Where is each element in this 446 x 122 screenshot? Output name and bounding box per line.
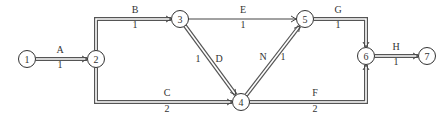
node-5: 5 bbox=[297, 11, 314, 28]
node-3: 3 bbox=[172, 11, 189, 28]
edge-d-inner bbox=[185, 26, 236, 95]
node-label: 7 bbox=[425, 51, 430, 62]
activity-label: B bbox=[132, 4, 139, 15]
activity-label: N bbox=[259, 51, 266, 62]
edge-g bbox=[314, 19, 370, 47]
duration-label: 1 bbox=[133, 19, 138, 30]
duration-label: 1 bbox=[336, 19, 341, 30]
duration-label: 1 bbox=[241, 19, 246, 30]
node-6: 6 bbox=[358, 48, 375, 65]
edge-d bbox=[185, 26, 236, 95]
duration-label: 1 bbox=[281, 51, 286, 62]
node-label: 4 bbox=[239, 97, 244, 108]
activity-label: D bbox=[215, 53, 222, 64]
duration-label: 1 bbox=[58, 59, 63, 70]
node-2: 2 bbox=[88, 51, 105, 68]
network-diagram: 1234567 A1B1C2D1E1N1F2G1H1 bbox=[0, 0, 446, 122]
node-label: 6 bbox=[364, 51, 369, 62]
duration-label: 2 bbox=[313, 103, 318, 114]
activity-label: A bbox=[56, 44, 64, 55]
activity-label: F bbox=[312, 87, 318, 98]
duration-label: 2 bbox=[165, 103, 170, 114]
edge-n-inner bbox=[246, 26, 299, 95]
activity-label: E bbox=[240, 4, 246, 15]
edge-n bbox=[246, 26, 299, 95]
activity-label: C bbox=[164, 87, 171, 98]
duration-label: 1 bbox=[196, 53, 201, 64]
node-4: 4 bbox=[233, 94, 250, 111]
node-label: 3 bbox=[178, 14, 183, 25]
node-1: 1 bbox=[19, 51, 36, 68]
activity-label: H bbox=[392, 41, 399, 52]
duration-label: 1 bbox=[394, 56, 399, 67]
node-label: 2 bbox=[94, 54, 99, 65]
activity-label: G bbox=[334, 4, 341, 15]
node-label: 1 bbox=[25, 54, 30, 65]
node-7: 7 bbox=[419, 48, 436, 65]
node-label: 5 bbox=[303, 14, 308, 25]
